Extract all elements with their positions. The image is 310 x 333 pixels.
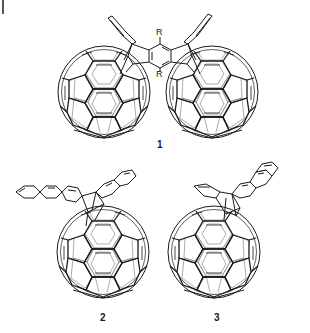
fullerene-1-left bbox=[58, 46, 150, 138]
structures-svg bbox=[0, 0, 310, 333]
compound-label-1: 1 bbox=[157, 140, 163, 150]
fullerene-3 bbox=[168, 206, 260, 298]
chemical-structures-figure: R R 1 2 3 bbox=[0, 0, 310, 333]
substituent-r-top: R bbox=[156, 28, 163, 37]
fullerene-1-right bbox=[166, 46, 258, 138]
bridge-1 bbox=[108, 14, 212, 74]
compound-2 bbox=[16, 170, 149, 298]
compound-label-3: 3 bbox=[214, 313, 220, 323]
compound-3 bbox=[168, 162, 278, 298]
substituent-r-bottom: R bbox=[156, 70, 163, 79]
fullerene-2 bbox=[57, 206, 149, 298]
compound-label-2: 2 bbox=[100, 313, 106, 323]
